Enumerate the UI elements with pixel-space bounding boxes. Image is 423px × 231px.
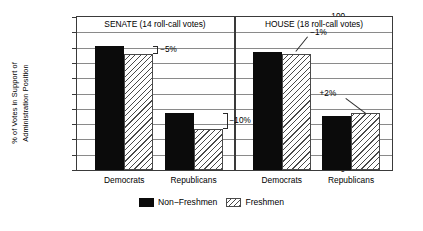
panel-divider	[234, 17, 236, 170]
plot-area	[76, 16, 393, 171]
bar-house-republicans-freshmen	[351, 113, 380, 170]
bar-senate-republicans-freshmen	[194, 129, 223, 170]
legend-label-freshmen: Freshmen	[245, 197, 284, 207]
chart-legend: Non−Freshmen Freshmen	[0, 197, 423, 207]
x-axis-label-house-republicans: Republicans	[311, 175, 391, 185]
bar-senate-democrats-non-freshmen	[95, 46, 124, 170]
legend-swatch-solid-icon	[139, 198, 154, 207]
bar-senate-republicans-non-freshmen	[165, 113, 194, 170]
x-axis-label-senate-republicans: Republicans	[154, 175, 234, 185]
bar-house-democrats-freshmen	[282, 54, 311, 170]
bar-senate-democrats-freshmen	[124, 54, 153, 170]
delta-annotation-senate-democrats: −5%	[160, 45, 177, 54]
legend-item-freshmen: Freshmen	[226, 197, 284, 207]
bar-house-republicans-non-freshmen	[322, 116, 351, 170]
legend-item-non-freshmen: Non−Freshmen	[139, 197, 217, 207]
delta-annotation-senate-republicans: −10%	[230, 116, 251, 125]
legend-swatch-hatched-icon	[226, 198, 241, 207]
delta-annotation-house-democrats: −1%	[310, 28, 327, 37]
bar-house-democrats-non-freshmen	[253, 52, 282, 170]
y-axis-title-line-2: Administration Position	[19, 28, 33, 178]
x-axis-label-senate-democrats: Democrats	[84, 175, 164, 185]
chart-container: % of Votes in Support of Administration …	[0, 0, 423, 231]
panel-title-senate: SENATE (14 roll-call votes)	[77, 19, 233, 29]
x-axis-label-house-democrats: Democrats	[242, 175, 322, 185]
delta-annotation-house-republicans: +2%	[320, 89, 337, 98]
y-axis-title: % of Votes in Support of Administration …	[6, 28, 34, 178]
delta-bracket	[223, 113, 228, 128]
delta-bracket	[153, 46, 158, 54]
legend-label-non-freshmen: Non−Freshmen	[158, 197, 217, 207]
